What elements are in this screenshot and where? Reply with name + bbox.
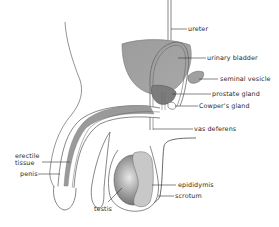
label-epididymis: epididymis	[178, 182, 214, 189]
label-testis: testis	[94, 206, 112, 213]
reproductive-system-diagram	[0, 0, 279, 227]
label-scrotum: scrotum	[175, 193, 202, 200]
label-urinary-bladder: urinary bladder	[207, 55, 258, 62]
label-vas-deferens: vas deferens	[194, 126, 236, 133]
label-seminal-vesicle: seminal vesicle	[220, 76, 271, 83]
glans	[53, 186, 76, 210]
seminal-vesicle	[188, 71, 204, 83]
label-prostate-gland: prostate gland	[212, 91, 260, 98]
label-penis: penis	[20, 171, 38, 178]
cowpers-gland	[168, 102, 176, 109]
label-ureter: ureter	[188, 26, 208, 33]
label-cowpers-gland: Cowper's gland	[199, 103, 250, 110]
ureter	[168, 0, 171, 40]
leg-fold	[91, 132, 110, 208]
label-erectile-tissue-2: tissue	[15, 160, 35, 167]
